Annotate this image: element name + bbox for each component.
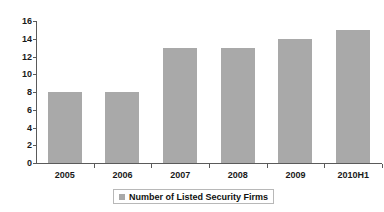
bar <box>163 48 197 163</box>
y-axis-tick-label: 4 <box>0 124 32 133</box>
x-axis-tick-mark <box>151 164 152 168</box>
y-axis-tick-label: 12 <box>0 53 32 62</box>
bar <box>105 92 139 163</box>
bar-slot <box>267 21 325 163</box>
bar-slot <box>94 21 152 163</box>
y-axis-tick-label: 6 <box>0 106 32 115</box>
bar <box>336 30 370 163</box>
y-axis-tick-label: 14 <box>0 35 32 44</box>
y-axis-tick-label: 16 <box>0 17 32 26</box>
y-axis-tick-label: 2 <box>0 141 32 150</box>
x-axis-tick-mark <box>94 164 95 168</box>
bar-slot <box>36 21 94 163</box>
legend-label: Number of Listed Security Firms <box>129 192 268 202</box>
x-axis-tick-label: 2006 <box>94 170 152 180</box>
x-axis-tick-label: 2008 <box>209 170 267 180</box>
bar <box>221 48 255 163</box>
x-axis-tick-label: 2009 <box>267 170 325 180</box>
y-axis-tick-label: 0 <box>0 159 32 168</box>
bar-slot <box>324 21 382 163</box>
x-axis-tick-label: 2007 <box>151 170 209 180</box>
x-axis-tick-mark <box>382 164 383 168</box>
bar-chart: 1614121086420 200520062007200820092010H1… <box>0 0 384 212</box>
x-axis-tick-label: 2005 <box>36 170 94 180</box>
y-axis-tick-label: 8 <box>0 88 32 97</box>
legend-swatch-icon <box>119 194 125 200</box>
bar <box>278 39 312 163</box>
x-axis-tick-mark <box>209 164 210 168</box>
bar <box>48 92 82 163</box>
x-axis-tick-mark <box>267 164 268 168</box>
chart-legend: Number of Listed Security Firms <box>113 189 274 204</box>
bar-slot <box>209 21 267 163</box>
bar-slot <box>151 21 209 163</box>
x-axis-tick-mark <box>324 164 325 168</box>
y-axis-tick-mark <box>33 163 37 164</box>
bars-layer <box>36 21 382 163</box>
y-axis-tick-label: 10 <box>0 70 32 79</box>
x-axis-tick-label: 2010H1 <box>324 170 382 180</box>
